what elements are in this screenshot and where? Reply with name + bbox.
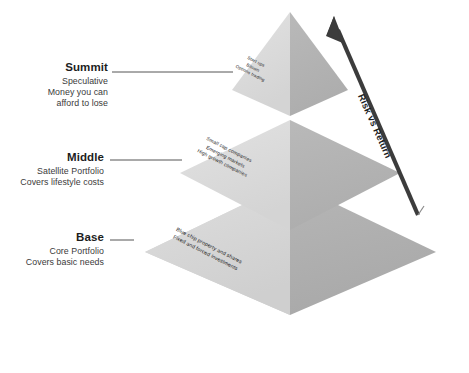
tier-label-base-title: Base	[0, 230, 104, 245]
tier-label-middle-line-1: Satellite Portfolio	[0, 166, 104, 177]
tier-label-base-line-2: Covers basic needs	[0, 257, 104, 268]
tier-label-middle: Middle Satellite Portfolio Covers lifest…	[0, 150, 104, 188]
tier-label-middle-title: Middle	[0, 150, 104, 165]
tier-label-summit: Summit Speculative Money you can afford …	[0, 60, 108, 109]
tier-label-summit-line-2: Money you can	[0, 87, 108, 98]
tier-label-summit-line-1: Speculative	[0, 76, 108, 87]
tier-label-summit-line-3: afford to lose	[0, 98, 108, 109]
tier-label-base-line-1: Core Portfolio	[0, 246, 104, 257]
tier-label-middle-line-2: Covers lifestyle costs	[0, 177, 104, 188]
tier-label-base: Base Core Portfolio Covers basic needs	[0, 230, 104, 268]
pyramid-tier-middle	[180, 120, 400, 230]
tier-label-summit-title: Summit	[0, 60, 108, 75]
summit-right-face	[290, 12, 348, 116]
pyramid-diagram: Summit Speculative Money you can afford …	[0, 0, 469, 373]
